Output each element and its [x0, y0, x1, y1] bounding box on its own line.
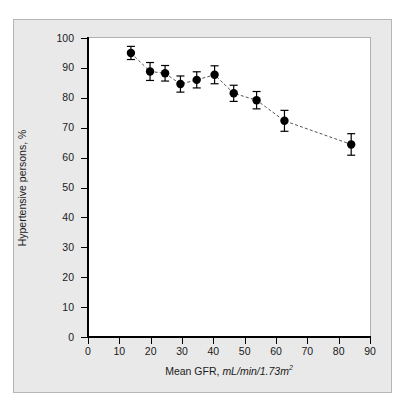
- y-tick-label: 50: [62, 182, 74, 193]
- x-tick-mark: [307, 338, 308, 344]
- y-axis-label: Hypertensive persons, %: [16, 130, 28, 247]
- y-tick-label: 60: [62, 152, 74, 163]
- x-tick-label: 50: [230, 346, 260, 357]
- x-tick-label: 30: [167, 346, 197, 357]
- y-tick-mark: [81, 98, 87, 99]
- axis-spine-x: [87, 336, 371, 338]
- x-tick-label: 20: [136, 346, 166, 357]
- x-tick-mark: [276, 338, 277, 344]
- y-tick-label: 10: [62, 302, 74, 313]
- x-tick-mark: [370, 338, 371, 344]
- x-tick-label: 70: [292, 346, 322, 357]
- x-tick-mark: [119, 338, 120, 344]
- x-tick-label: 0: [73, 346, 103, 357]
- y-tick-label: 90: [62, 62, 74, 73]
- figure-container: 0102030405060708090100 01020304050607080…: [0, 0, 407, 411]
- x-axis-label-main: Mean GFR,: [165, 365, 222, 377]
- y-tick-mark: [81, 307, 87, 308]
- y-tick-mark: [81, 247, 87, 248]
- y-tick-mark: [81, 158, 87, 159]
- axis-spine-right: [370, 37, 371, 337]
- x-axis-label-units: mL/min/1.73m: [222, 365, 289, 377]
- axis-spine-y: [87, 37, 89, 338]
- y-tick-label: 40: [62, 212, 74, 223]
- x-tick-label: 60: [261, 346, 291, 357]
- x-tick-mark: [339, 338, 340, 344]
- x-tick-label: 90: [355, 346, 385, 357]
- y-tick-label: 100: [56, 33, 74, 44]
- axis-spine-top: [88, 37, 371, 38]
- y-tick-mark: [81, 128, 87, 129]
- x-tick-mark: [213, 338, 214, 344]
- y-tick-mark: [81, 188, 87, 189]
- plot-area: [88, 38, 370, 337]
- y-tick-label: 70: [62, 122, 74, 133]
- x-tick-mark: [88, 338, 89, 344]
- x-tick-label: 10: [104, 346, 134, 357]
- x-tick-label: 80: [324, 346, 354, 357]
- x-tick-mark: [182, 338, 183, 344]
- x-axis-label-exponent: 2: [289, 364, 293, 371]
- x-tick-mark: [245, 338, 246, 344]
- x-axis-label: Mean GFR, mL/min/1.73m2: [88, 364, 370, 377]
- y-tick-mark: [81, 337, 87, 338]
- y-tick-mark: [81, 277, 87, 278]
- y-tick-label: 30: [62, 242, 74, 253]
- y-tick-mark: [81, 217, 87, 218]
- y-tick-label: 20: [62, 272, 74, 283]
- y-tick-label: 0: [68, 332, 74, 343]
- y-tick-mark: [81, 38, 87, 39]
- y-tick-mark: [81, 68, 87, 69]
- x-tick-label: 40: [198, 346, 228, 357]
- x-tick-mark: [151, 338, 152, 344]
- y-tick-label: 80: [62, 92, 74, 103]
